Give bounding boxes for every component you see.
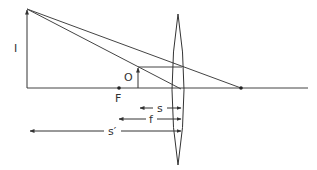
image-label: I <box>14 42 17 55</box>
object-label: O <box>124 71 133 84</box>
focal-length-label: f <box>149 113 154 126</box>
focal-point-label: F <box>115 92 121 105</box>
ray-through-focus <box>27 9 241 88</box>
focal-point-left <box>117 86 121 90</box>
object-distance-label: s <box>157 102 163 115</box>
lens-diagram: I O F s f s′ <box>0 0 317 170</box>
image-distance-label: s′ <box>108 125 117 138</box>
converging-lens <box>172 14 184 165</box>
ray-through-object-tip <box>27 9 181 89</box>
focal-point-right <box>239 86 243 90</box>
